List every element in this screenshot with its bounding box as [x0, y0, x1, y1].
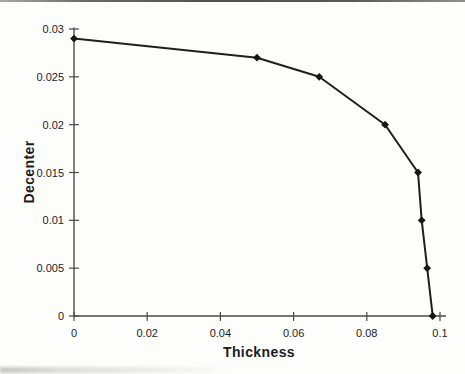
y-axis-title: Decenter	[21, 140, 37, 203]
data-point-marker	[70, 35, 78, 43]
x-tick-label: 0.04	[210, 327, 231, 339]
scan-artifact-smudge	[0, 367, 232, 373]
y-tick-label: 0.015	[36, 167, 64, 179]
y-tick-label: 0.02	[43, 119, 64, 131]
y-tick-label: 0	[58, 310, 64, 322]
data-point-marker	[253, 54, 261, 62]
data-point-marker	[423, 264, 431, 272]
y-tick-label: 0.005	[36, 262, 64, 274]
data-point-marker	[429, 312, 437, 320]
x-axis-title: Thickness	[223, 344, 295, 360]
chart-canvas: 00.020.040.060.080.100.0050.010.0150.020…	[0, 0, 465, 374]
y-tick-label: 0.01	[43, 214, 64, 226]
data-series-line	[74, 39, 433, 316]
data-point-marker	[418, 216, 426, 224]
x-tick-label: 0.06	[283, 327, 304, 339]
x-tick-label: 0.08	[356, 327, 377, 339]
x-tick-label: 0	[71, 327, 77, 339]
y-tick-label: 0.03	[43, 23, 64, 35]
scanned-figure-page: 00.020.040.060.080.100.0050.010.0150.020…	[0, 0, 465, 374]
x-tick-label: 0.02	[136, 327, 157, 339]
x-tick-label: 0.1	[432, 327, 447, 339]
y-tick-label: 0.025	[36, 71, 64, 83]
